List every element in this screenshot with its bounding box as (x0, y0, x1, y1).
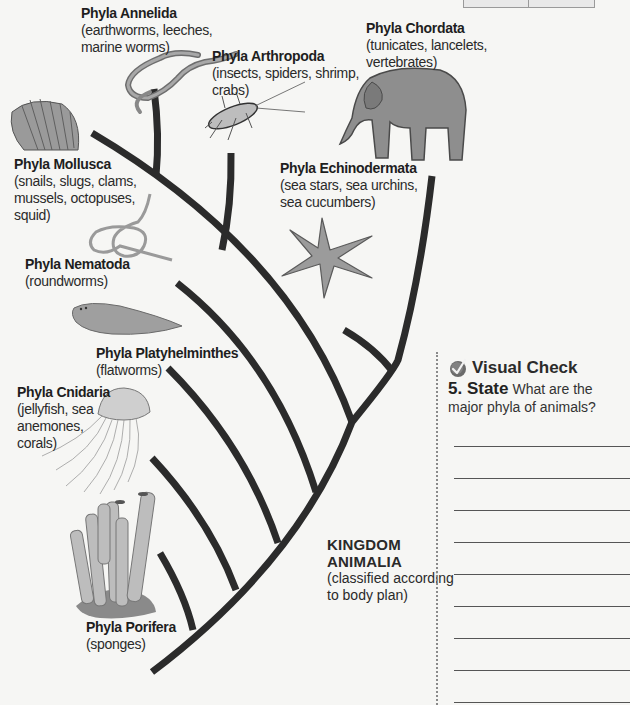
shell-icon (11, 99, 78, 150)
label-platyhelminthes: Phyla Platyhelminthes (flatworms) (96, 345, 238, 379)
label-arthropoda: Phyla Arthropoda (insects, spiders, shri… (212, 48, 359, 99)
label-echinodermata: Phyla Echinodermata (sea stars, sea urch… (280, 160, 418, 211)
kingdom-animalia-label: KINGDOM ANIMALIA (classified according t… (327, 536, 454, 604)
branch-cnidaria (152, 458, 236, 590)
answer-line[interactable] (454, 638, 630, 639)
label-mollusca: Phyla Mollusca (snails, slugs, clams, mu… (14, 156, 137, 224)
label-cnidaria: Phyla Cnidaria (jellyfish, sea anemones,… (17, 384, 110, 452)
answer-line[interactable] (454, 670, 630, 671)
answer-line[interactable] (454, 702, 630, 703)
visual-check-heading: Visual Check (448, 358, 578, 378)
starfish-icon (282, 218, 372, 298)
sponge-icon (70, 492, 156, 619)
label-porifera: Phyla Porifera (sponges) (86, 619, 176, 653)
flatworm-icon (72, 303, 182, 334)
branch-annelida (154, 89, 158, 176)
answer-line[interactable] (454, 446, 630, 447)
checkmark-icon (448, 358, 468, 378)
label-annelida: Phyla Annelida (earthworms, leeches, mar… (81, 5, 212, 56)
answer-line[interactable] (454, 606, 630, 607)
branch-platyhelminthes (168, 368, 278, 543)
answer-line[interactable] (454, 574, 630, 575)
question-5: 5. StateWhat are the major phyla of anim… (448, 380, 628, 416)
label-nematoda: Phyla Nematoda (roundworms) (25, 256, 130, 290)
branch-echinodermata (344, 330, 393, 372)
visual-check-sidebar: Visual Check 5. StateWhat are the major … (436, 352, 630, 705)
answer-line[interactable] (454, 478, 630, 479)
label-chordata: Phyla Chordata (tunicates, lancelets, ve… (366, 20, 487, 71)
answer-line[interactable] (454, 542, 630, 543)
answer-line[interactable] (454, 510, 630, 511)
